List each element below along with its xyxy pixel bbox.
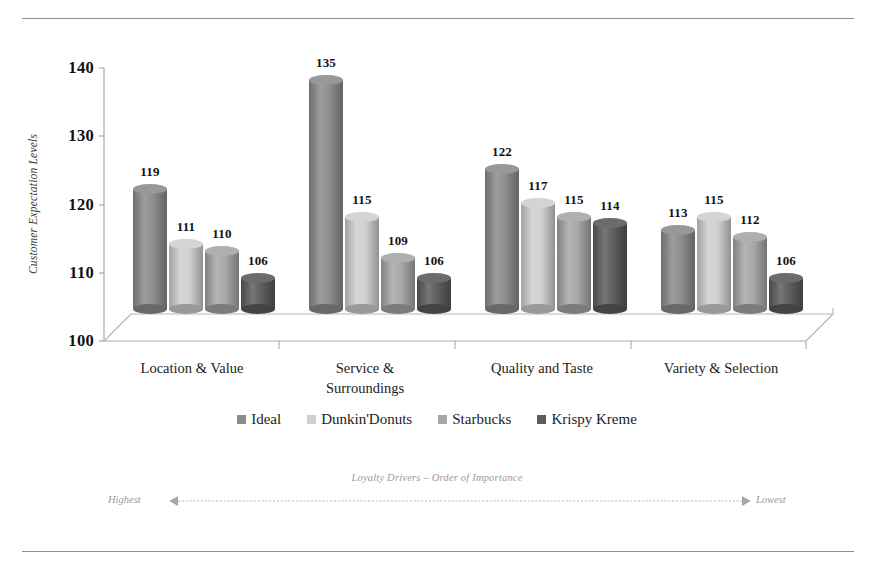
bar-value-0-3: 106 <box>238 253 278 269</box>
bar-bottom-cap <box>309 304 343 314</box>
importance-double-arrow <box>0 492 874 514</box>
bar-value-2-2: 115 <box>554 192 594 208</box>
bar-body <box>661 230 695 309</box>
y-tick-100: 100 <box>48 331 94 351</box>
bar-top-cap <box>697 212 731 222</box>
bar-body <box>593 223 627 309</box>
bar-bottom-cap <box>205 304 239 314</box>
bar-value-0-1: 111 <box>166 219 206 235</box>
footer-note: Loyalty Drivers – Order of Importance <box>0 472 874 483</box>
bar-value-1-0: 135 <box>306 55 346 71</box>
legend-swatch-icon <box>307 415 316 424</box>
bar-0-2 <box>205 246 239 314</box>
legend-swatch-icon <box>537 415 546 424</box>
bar-value-2-0: 122 <box>482 144 522 160</box>
bar-1-0 <box>309 75 343 314</box>
bar-bottom-cap <box>557 304 591 314</box>
bar-body <box>205 251 239 309</box>
bar-bottom-cap <box>417 304 451 314</box>
legend-label: Ideal <box>251 411 281 428</box>
bar-3-2 <box>733 232 767 314</box>
bar-value-2-1: 117 <box>518 178 558 194</box>
bar-0-0 <box>133 184 167 314</box>
bar-3-1 <box>697 212 731 314</box>
bar-body <box>485 169 519 309</box>
bar-value-3-3: 106 <box>766 253 806 269</box>
bar-body <box>733 237 767 309</box>
legend-item-3[interactable]: Krispy Kreme <box>537 411 636 428</box>
bar-top-cap <box>521 198 555 208</box>
y-tick-110: 110 <box>48 263 94 283</box>
bar-0-3 <box>241 273 275 314</box>
bar-2-0 <box>485 164 519 314</box>
bar-body <box>557 217 591 309</box>
bar-value-0-2: 110 <box>202 226 242 242</box>
bar-top-cap <box>205 246 239 256</box>
bar-0-1 <box>169 239 203 314</box>
bar-3-0 <box>661 225 695 314</box>
bar-value-1-3: 106 <box>414 253 454 269</box>
bar-body <box>345 217 379 309</box>
legend-swatch-icon <box>438 415 447 424</box>
bar-bottom-cap <box>381 304 415 314</box>
bar-bottom-cap <box>133 304 167 314</box>
chart-legend: IdealDunkin'DonutsStarbucksKrispy Kreme <box>0 411 874 428</box>
bar-bottom-cap <box>169 304 203 314</box>
legend-label: Starbucks <box>452 411 511 428</box>
bar-top-cap <box>381 253 415 263</box>
legend-item-2[interactable]: Starbucks <box>438 411 511 428</box>
y-tick-120: 120 <box>48 195 94 215</box>
bar-bottom-cap <box>521 304 555 314</box>
bar-bottom-cap <box>485 304 519 314</box>
bar-body <box>381 258 415 309</box>
bar-top-cap <box>169 239 203 249</box>
legend-item-0[interactable]: Ideal <box>237 411 281 428</box>
bar-value-0-0: 119 <box>130 164 170 180</box>
bar-value-1-2: 109 <box>378 233 418 249</box>
legend-label: Krispy Kreme <box>551 411 636 428</box>
bar-3-3 <box>769 273 803 314</box>
bar-2-2 <box>557 212 591 314</box>
bar-chart: Customer Expectation Levels 140 130 120 … <box>0 0 874 570</box>
x-category-3: Variety & Selection <box>638 358 804 378</box>
bar-body <box>133 189 167 309</box>
bar-top-cap <box>485 164 519 174</box>
bar-bottom-cap <box>733 304 767 314</box>
bar-bottom-cap <box>769 304 803 314</box>
bar-bottom-cap <box>697 304 731 314</box>
bar-top-cap <box>241 273 275 283</box>
bar-1-3 <box>417 273 451 314</box>
y-tick-140: 140 <box>48 58 94 78</box>
legend-item-1[interactable]: Dunkin'Donuts <box>307 411 412 428</box>
bar-2-1 <box>521 198 555 314</box>
bar-value-1-1: 115 <box>342 192 382 208</box>
bar-body <box>521 203 555 309</box>
bar-value-3-1: 115 <box>694 192 734 208</box>
bar-bottom-cap <box>241 304 275 314</box>
bar-1-1 <box>345 212 379 314</box>
x-category-2: Quality and Taste <box>462 358 622 378</box>
bar-top-cap <box>345 212 379 222</box>
bar-value-2-3: 114 <box>590 198 630 214</box>
bar-bottom-cap <box>661 304 695 314</box>
bar-2-3 <box>593 218 627 314</box>
bar-value-3-2: 112 <box>730 212 770 228</box>
bar-top-cap <box>417 273 451 283</box>
legend-swatch-icon <box>237 415 246 424</box>
bar-body <box>697 217 731 309</box>
x-category-0: Location & Value <box>112 358 272 378</box>
bar-bottom-cap <box>593 304 627 314</box>
bar-top-cap <box>769 273 803 283</box>
bar-value-3-0: 113 <box>658 205 698 221</box>
bar-body <box>169 244 203 309</box>
bar-top-cap <box>557 212 591 222</box>
bar-1-2 <box>381 253 415 314</box>
legend-label: Dunkin'Donuts <box>321 411 412 428</box>
importance-arrow-row: Highest Lowest <box>0 492 874 514</box>
x-category-1: Service & Surroundings <box>290 358 440 398</box>
bar-bottom-cap <box>345 304 379 314</box>
y-tick-130: 130 <box>48 126 94 146</box>
bar-body <box>309 80 343 309</box>
